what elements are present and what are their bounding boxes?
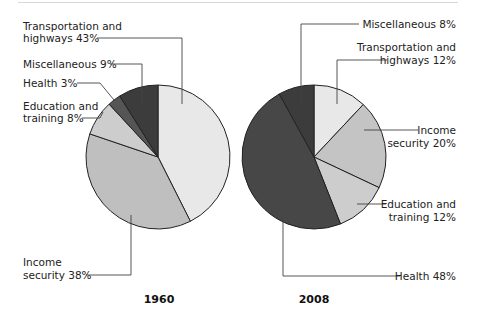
label-2008-miscellaneous: Miscellaneous 8%	[362, 18, 456, 30]
label-2008-education-1: Education and	[381, 198, 456, 210]
label-2008-health: Health 48%	[395, 270, 456, 282]
label-2008-education-2: training 12%	[389, 211, 456, 223]
label-2008-transportation-2: highways 12%	[380, 54, 456, 66]
label-2008-transportation-1: Transportation and	[356, 41, 456, 53]
pie-charts: Transportation and highways 43% Miscella…	[0, 0, 477, 320]
label-1960-education-1: Education and	[23, 100, 98, 112]
label-1960-transportation-1: Transportation and	[22, 20, 122, 32]
pie-1960	[86, 85, 230, 229]
year-label-2008: 2008	[299, 293, 330, 306]
pie-2008	[242, 85, 386, 229]
year-label-1960: 1960	[144, 293, 175, 306]
label-2008-income-1: Income	[417, 124, 456, 136]
label-1960-income-1: Income	[23, 256, 62, 268]
label-1960-education-2: training 8%	[23, 112, 84, 124]
label-1960-health: Health 3%	[23, 77, 77, 89]
label-1960-income-2: security 38%	[23, 269, 92, 281]
label-2008-income-2: security 20%	[387, 137, 456, 149]
label-1960-transportation-2: highways 43%	[23, 32, 99, 44]
label-1960-miscellaneous: Miscellaneous 9%	[23, 58, 117, 70]
